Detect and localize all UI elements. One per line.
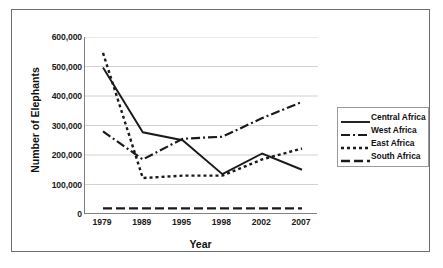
plot-svg (85, 37, 318, 214)
legend-item-label: South Africa (371, 152, 420, 160)
y-axis-tick-label: 300,000 (20, 122, 82, 131)
x-axis-tick-label: 2007 (291, 218, 310, 227)
y-axis-tick-label: 500,000 (20, 63, 82, 72)
series-line (103, 102, 302, 160)
x-axis-tick-label: 1998 (212, 218, 231, 227)
legend-line-swatch (340, 139, 371, 149)
x-axis-tick-labels: 197919891995199820022007 (84, 218, 317, 232)
chart-legend: Central AfricaWest AfricaEast AfricaSout… (337, 107, 429, 167)
legend-line-swatch (340, 152, 371, 162)
chart-container: Number of Elephants 0100,000200,000300,0… (0, 0, 443, 268)
y-axis-tick-label: 0 (20, 210, 82, 219)
series-line (103, 67, 302, 174)
legend-line-swatch (340, 126, 371, 136)
x-axis-tick-label: 1979 (92, 218, 111, 227)
figure-frame: Number of Elephants 0100,000200,000300,0… (11, 9, 430, 252)
y-axis-tick-label: 100,000 (20, 181, 82, 190)
legend-item-label: West Africa (371, 126, 417, 134)
x-axis-tick-label: 1989 (132, 218, 151, 227)
x-axis-tick-label: 1995 (172, 218, 191, 227)
x-axis-tick-label: 2002 (252, 218, 271, 227)
y-axis-tick-label: 200,000 (20, 151, 82, 160)
legend-item[interactable]: South Africa (340, 150, 426, 163)
y-axis-tick-label: 400,000 (20, 92, 82, 101)
x-axis-title: Year (84, 238, 317, 250)
legend-item[interactable]: East Africa (340, 137, 426, 150)
legend-item[interactable]: West Africa (340, 124, 426, 137)
legend-line-swatch (340, 113, 371, 123)
legend-item-label: Central Africa (371, 113, 426, 121)
y-axis-tick-labels: 0100,000200,000300,000400,000500,000600,… (12, 10, 82, 268)
legend-item[interactable]: Central Africa (340, 111, 426, 124)
legend-item-label: East Africa (371, 139, 414, 147)
y-axis-tick-label: 600,000 (20, 33, 82, 42)
plot-area (84, 37, 317, 214)
